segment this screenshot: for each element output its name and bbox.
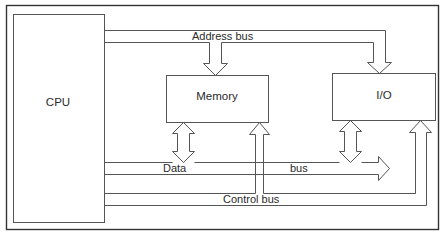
cpu-box [14, 15, 105, 223]
data-bus-label-left: Data [163, 163, 186, 174]
cpu-label: CPU [46, 97, 70, 109]
address-bus-label: Address bus [192, 31, 253, 42]
data-bus-arrow [105, 157, 390, 181]
io-label: I/O [376, 90, 391, 102]
io-data-double-arrow [340, 121, 362, 163]
memory-label: Memory [196, 91, 238, 103]
data-bus [105, 157, 390, 181]
control-bus-label: Control bus [223, 194, 279, 205]
memory-data-double-arrow [173, 123, 195, 163]
data-bus-label-right: bus [290, 163, 308, 174]
computer-bus-diagram: CPU Memory I/O Address bus Data bus Cont… [0, 0, 444, 232]
